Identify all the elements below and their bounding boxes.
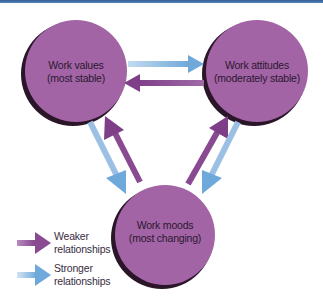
legend-stronger-arrow-icon	[17, 264, 51, 286]
legend-stronger-line2: relationships	[54, 275, 110, 288]
node-attitudes-label: Work attitudes (moderately stable)	[202, 59, 312, 85]
arrow-attitudes-to-values	[124, 74, 204, 92]
node-moods-label: Work moods (most changing)	[115, 219, 215, 245]
node-moods-title: Work moods	[115, 219, 215, 232]
node-attitudes-title: Work attitudes	[202, 59, 312, 72]
legend-weaker-label: Weaker relationships	[54, 230, 110, 256]
node-values-subtitle: (most stable)	[26, 72, 126, 85]
legend-stronger-line1: Stronger	[54, 262, 110, 275]
node-moods-subtitle: (most changing)	[115, 232, 215, 245]
node-attitudes-subtitle: (moderately stable)	[202, 72, 312, 85]
legend-weaker-line2: relationships	[54, 243, 110, 256]
node-values-label: Work values (most stable)	[26, 59, 126, 85]
node-values-title: Work values	[26, 59, 126, 72]
arrow-values-to-attitudes	[128, 55, 204, 73]
legend-stronger-label: Stronger relationships	[54, 262, 110, 288]
relationship-diagram	[0, 0, 323, 303]
legend-weaker-arrow-icon	[17, 232, 51, 254]
legend-weaker-line1: Weaker	[54, 230, 110, 243]
